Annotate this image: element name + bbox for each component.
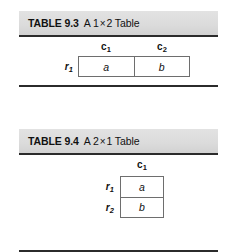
column-header-c2: c2	[134, 41, 190, 52]
table-body-9-4: c1 r1 r2 a b	[19, 155, 218, 250]
caption-title-prefix-9-4: A 2	[84, 135, 99, 147]
column-header-c1: c1	[120, 159, 164, 170]
row-label-r1-sub: 1	[69, 65, 73, 74]
caption-title-suffix-9-4: 1 Table	[106, 135, 139, 147]
table-grid-9-3: a b	[78, 56, 190, 77]
caption-title-prefix-9-3: A 1	[84, 17, 99, 29]
table-cell: b	[134, 57, 190, 76]
table-caption-bar-9-3: TABLE 9.3 A 1×2 Table	[19, 11, 218, 35]
caption-title-suffix-9-3: 2 Table	[106, 17, 139, 29]
row-label-r2: r2	[74, 202, 114, 213]
table-cell: a	[79, 57, 134, 76]
row-label-r1-base: r	[106, 181, 110, 192]
row-label-r2-base: r	[106, 202, 110, 213]
row-label-r1: r1	[29, 61, 73, 72]
column-header-c2-sub: 2	[163, 45, 167, 54]
row-label-r1-sub: 1	[110, 185, 114, 194]
table-caption-title-9-4: A 2×1 Table	[84, 135, 140, 147]
table-figure-9-3: TABLE 9.3 A 1×2 Table c1 c2 r1 a b	[19, 11, 218, 87]
table-cell: a	[121, 177, 163, 197]
table-figure-9-4: TABLE 9.4 A 2×1 Table c1 r1 r2 a b	[19, 129, 218, 252]
table-bottom-rule-9-3	[19, 85, 218, 87]
column-header-c2-base: c	[157, 41, 163, 52]
column-header-c1-sub: 1	[143, 163, 147, 172]
column-header-c1-base: c	[137, 159, 143, 170]
row-label-r2-sub: 2	[110, 206, 114, 215]
table-cell: b	[121, 197, 163, 218]
table-caption-title-9-3: A 1×2 Table	[84, 17, 140, 29]
column-header-c1: c1	[78, 41, 134, 52]
row-label-r1: r1	[74, 181, 114, 192]
column-header-c1-sub: 1	[107, 45, 111, 54]
row-label-r1-base: r	[65, 61, 69, 72]
table-caption-label-9-3: TABLE 9.3	[28, 17, 79, 29]
table-caption-label-9-4: TABLE 9.4	[28, 135, 79, 147]
table-caption-bar-9-4: TABLE 9.4 A 2×1 Table	[19, 129, 218, 153]
table-body-9-3: c1 c2 r1 a b	[19, 37, 218, 85]
table-grid-9-4: a b	[120, 176, 164, 218]
column-header-c1-base: c	[101, 41, 107, 52]
